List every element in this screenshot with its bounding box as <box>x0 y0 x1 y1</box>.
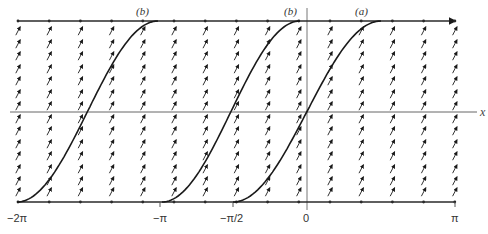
slope-arrow <box>265 165 269 173</box>
slope-arrow <box>421 65 425 73</box>
slope-arrow <box>297 152 301 160</box>
slope-arrow <box>453 65 457 73</box>
curve-label-a: (a) <box>355 5 368 18</box>
slope-arrow <box>234 115 238 123</box>
slope-arrow <box>390 115 394 123</box>
slope-arrow <box>234 40 238 48</box>
equilibrium-dot <box>48 20 51 23</box>
slope-arrow <box>359 90 363 98</box>
slope-arrow <box>453 188 457 196</box>
slope-arrow <box>203 77 207 85</box>
slope-arrow <box>203 27 207 35</box>
slope-arrow <box>78 52 82 60</box>
slope-arrow <box>328 165 332 173</box>
slope-arrow <box>390 177 394 185</box>
slope-arrow <box>47 127 51 135</box>
slope-arrow <box>78 65 82 73</box>
slope-arrow <box>109 52 113 60</box>
slope-arrow <box>47 27 51 35</box>
slope-arrow <box>172 90 176 98</box>
slope-arrow <box>16 40 20 48</box>
slope-arrow <box>47 140 51 148</box>
slope-arrow <box>47 102 51 110</box>
equilibrium-dot <box>329 201 332 204</box>
slope-arrow <box>16 140 20 148</box>
curve-label-b-middle: (b) <box>284 5 297 18</box>
slope-arrow <box>16 90 20 98</box>
slope-arrow <box>421 90 425 98</box>
slope-arrow <box>109 165 113 173</box>
slope-arrow <box>359 165 363 173</box>
slope-arrow <box>453 27 457 35</box>
equilibrium-dot <box>360 201 363 204</box>
x-axis-label: x <box>479 105 486 119</box>
slope-arrow <box>297 188 301 196</box>
equilibrium-dot <box>79 20 82 23</box>
slope-arrow <box>328 177 332 185</box>
slope-arrow <box>234 177 238 185</box>
slope-arrow <box>359 115 363 123</box>
slope-arrow <box>47 40 51 48</box>
slope-arrow <box>297 177 301 185</box>
slope-arrow <box>390 65 394 73</box>
slope-arrow <box>203 90 207 98</box>
slope-arrow <box>203 165 207 173</box>
slope-arrow <box>297 77 301 85</box>
slope-arrow <box>421 27 425 35</box>
slope-arrow <box>141 177 145 185</box>
slope-arrow <box>421 102 425 110</box>
slope-arrow <box>421 140 425 148</box>
slope-arrow <box>234 152 238 160</box>
slope-arrow <box>203 65 207 73</box>
slope-arrow <box>453 140 457 148</box>
equilibrium-dot <box>266 201 269 204</box>
slope-arrow <box>265 65 269 73</box>
slope-arrow <box>109 90 113 98</box>
slope-arrow <box>16 102 20 110</box>
slope-arrow <box>16 188 20 196</box>
slope-arrow <box>390 52 394 60</box>
slope-arrow <box>390 27 394 35</box>
slope-arrow <box>297 90 301 98</box>
slope-arrow <box>109 127 113 135</box>
slope-arrow <box>297 102 301 110</box>
slope-arrow <box>390 40 394 48</box>
slope-arrow <box>47 115 51 123</box>
slope-arrow <box>234 140 238 148</box>
tick-label-neg-2pi: −2π <box>7 212 28 224</box>
slope-arrow <box>234 127 238 135</box>
slope-arrow <box>359 65 363 73</box>
slope-arrow <box>172 52 176 60</box>
slope-arrow <box>390 140 394 148</box>
slope-arrow <box>109 77 113 85</box>
slope-arrow <box>390 127 394 135</box>
slope-arrow <box>453 77 457 85</box>
slope-arrow <box>203 52 207 60</box>
equilibrium-dot <box>329 20 332 23</box>
slope-arrow <box>16 165 20 173</box>
slope-arrow <box>203 188 207 196</box>
slope-arrow <box>328 40 332 48</box>
slope-arrow <box>109 140 113 148</box>
slope-arrow <box>453 165 457 173</box>
equilibrium-dot <box>297 201 300 204</box>
equilibrium-dot <box>48 201 51 204</box>
slope-arrow <box>203 40 207 48</box>
slope-arrow <box>453 90 457 98</box>
slope-arrow <box>109 115 113 123</box>
slope-arrow <box>265 77 269 85</box>
slope-arrow <box>16 152 20 160</box>
slope-arrow <box>78 165 82 173</box>
tick-label-neg-pi: −π <box>153 212 167 224</box>
slope-arrow <box>328 52 332 60</box>
slope-arrow <box>203 140 207 148</box>
slope-arrow <box>16 127 20 135</box>
equilibrium-dot <box>453 20 456 23</box>
slope-arrow <box>359 102 363 110</box>
slope-arrow <box>359 177 363 185</box>
slope-arrow <box>359 77 363 85</box>
slope-arrow <box>78 40 82 48</box>
slope-arrow <box>172 177 176 185</box>
slope-arrow <box>203 177 207 185</box>
slope-arrow <box>297 140 301 148</box>
